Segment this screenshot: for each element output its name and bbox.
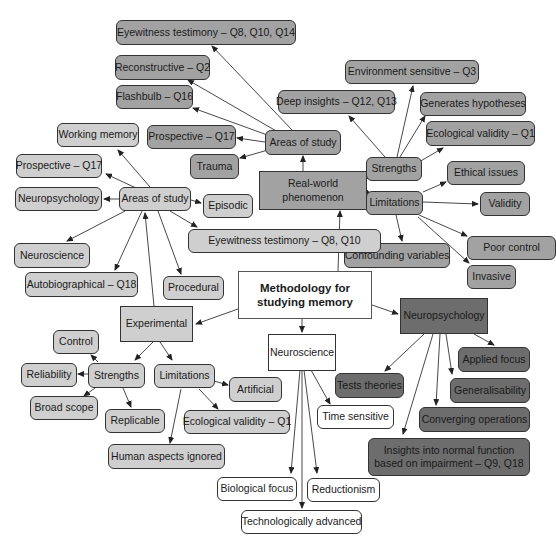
ns-reductionism: Reductionism xyxy=(307,478,380,502)
ex-area-eyewitness: Eyewitness testimony – Q8, Q10 xyxy=(188,229,381,253)
ns-biological-focus: Biological focus xyxy=(217,477,297,501)
rw-area-trauma: Trauma xyxy=(190,154,239,179)
rw-areas-of-study: Areas of study xyxy=(265,130,341,155)
np-tests-theories: Tests theories xyxy=(335,373,404,398)
rw-area-eyewitness: Eyewitness testimony – Q8, Q10, Q14 xyxy=(116,20,296,45)
rw-strength-ecological: Ecological validity – Q1 xyxy=(426,121,535,146)
ex-area-working-memory: Working memory xyxy=(57,123,139,147)
rw-limitation-poor-control: Poor control xyxy=(467,236,556,260)
branch-real-world-phenomenon: Real-world phenomenon xyxy=(259,171,367,210)
ex-area-prospective: Prospective – Q17 xyxy=(16,154,102,178)
ex-strength-replicable: Replicable xyxy=(105,409,165,433)
rw-area-prospective: Prospective – Q17 xyxy=(147,125,236,149)
rw-limitation-ethical: Ethical issues xyxy=(447,161,525,185)
ex-strength-control: Control xyxy=(53,330,99,354)
ex-area-episodic: Episodic xyxy=(203,194,253,218)
ex-area-autobiographical: Autobiographical – Q18 xyxy=(25,272,138,297)
ex-strength-broad-scope: Broad scope xyxy=(30,396,98,420)
np-generalisability: Generalisability xyxy=(450,378,530,403)
rw-limitations: Limitations xyxy=(366,191,423,215)
rw-limitation-validity: Validity xyxy=(480,192,530,216)
branch-neuroscience: Neuroscience xyxy=(268,334,336,371)
rw-area-flashbulb: Flashbulb – Q16 xyxy=(116,85,193,109)
ex-strength-reliability: Reliability xyxy=(21,363,77,387)
np-applied-focus: Applied focus xyxy=(458,347,530,372)
branch-experimental: Experimental xyxy=(120,306,193,342)
np-converging-operations: Converging operations xyxy=(419,407,530,432)
rw-strengths: Strengths xyxy=(366,157,422,181)
rw-strength-deep-insights: Deep insights – Q12, Q13 xyxy=(278,90,395,114)
ex-limitation-artificial: Artificial xyxy=(229,377,282,402)
rw-strength-environment: Environment sensitive – Q3 xyxy=(345,60,479,84)
central-topic: Methodology for studying memory xyxy=(238,271,372,319)
ex-areas-of-study: Areas of study xyxy=(119,187,191,211)
ex-limitation-ecological: Ecological validity – Q1 xyxy=(184,410,290,434)
ex-area-neuropsychology: Neuropsychology xyxy=(15,187,102,211)
branch-neuropsychology: Neuropsychology xyxy=(400,298,488,334)
ex-limitations: Limitations xyxy=(154,364,215,388)
ex-limitation-human-aspects: Human aspects ignored xyxy=(108,444,225,469)
rw-area-reconstructive: Reconstructive – Q2 xyxy=(115,55,210,80)
rw-limitation-invasive: Invasive xyxy=(467,265,516,289)
rw-strength-hypotheses: Generates hypotheses xyxy=(420,92,526,116)
np-insights-impairment: Insights into normal function based on i… xyxy=(368,438,530,476)
ns-time-sensitive: Time sensitive xyxy=(317,405,394,429)
ns-technologically-advanced: Technologically advanced xyxy=(241,510,362,534)
ex-strengths: Strengths xyxy=(88,363,145,388)
ex-area-neuroscience: Neuroscience xyxy=(14,243,90,268)
ex-area-procedural: Procedural xyxy=(163,276,224,300)
